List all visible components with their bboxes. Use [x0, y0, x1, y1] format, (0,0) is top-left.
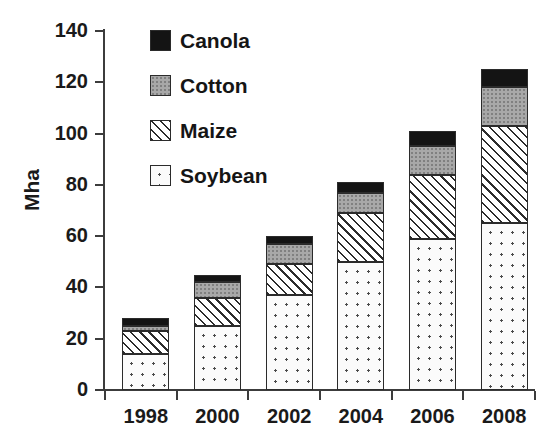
y-tick-mark — [95, 338, 104, 340]
bar-segment-canola[interactable] — [266, 236, 313, 244]
bar-segment-canola[interactable] — [409, 131, 456, 146]
bar-group[interactable] — [481, 31, 528, 390]
bar-segment-soybean[interactable] — [481, 223, 528, 390]
bar-segment-maize[interactable] — [266, 264, 313, 295]
x-tick-mark — [176, 391, 178, 400]
y-tick-label: 20 — [0, 328, 88, 348]
legend: CanolaCottonMaizeSoybean — [150, 22, 330, 202]
y-tick-mark — [95, 81, 104, 83]
bar-segment-maize[interactable] — [481, 126, 528, 223]
bar-segment-cotton[interactable] — [337, 193, 384, 214]
bar-segment-soybean[interactable] — [337, 262, 384, 390]
bar-group[interactable] — [337, 31, 384, 390]
y-tick-label: 60 — [0, 225, 88, 245]
bar-segment-maize[interactable] — [122, 331, 169, 354]
legend-label: Cotton — [180, 75, 248, 96]
y-tick-label: 40 — [0, 276, 88, 296]
legend-item-soybean[interactable]: Soybean — [150, 157, 330, 193]
legend-label: Canola — [180, 30, 250, 51]
bar-segment-cotton[interactable] — [122, 326, 169, 331]
bar-segment-canola[interactable] — [122, 318, 169, 326]
x-tick-mark — [319, 391, 321, 400]
y-tick-label: 120 — [0, 71, 88, 91]
bar-segment-cotton[interactable] — [266, 244, 313, 265]
bar-segment-cotton[interactable] — [194, 282, 241, 297]
white-dotted-swatch — [150, 165, 171, 186]
stacked-bar-chart: Mha 020406080100120140 19982000200220042… — [0, 0, 555, 448]
legend-item-canola[interactable]: Canola — [150, 22, 330, 58]
y-tick-label: 0 — [0, 379, 88, 399]
y-tick-mark — [95, 184, 104, 186]
x-tick-mark — [462, 391, 464, 400]
bar-segment-maize[interactable] — [194, 298, 241, 326]
x-tick-label: 2008 — [459, 406, 549, 426]
bar-segment-canola[interactable] — [337, 182, 384, 192]
bar-segment-cotton[interactable] — [409, 146, 456, 174]
bar-segment-maize[interactable] — [409, 175, 456, 239]
y-tick-label: 80 — [0, 174, 88, 194]
x-tick-mark — [391, 391, 393, 400]
bar-segment-canola[interactable] — [481, 69, 528, 87]
y-tick-mark — [95, 30, 104, 32]
y-tick-mark — [95, 235, 104, 237]
legend-label: Maize — [180, 120, 237, 141]
y-tick-label: 140 — [0, 20, 88, 40]
x-tick-mark — [104, 391, 106, 400]
bar-segment-soybean[interactable] — [266, 295, 313, 390]
y-tick-mark — [95, 286, 104, 288]
legend-item-cotton[interactable]: Cotton — [150, 67, 330, 103]
y-tick-label: 100 — [0, 123, 88, 143]
x-tick-mark — [534, 391, 536, 400]
y-tick-mark — [95, 389, 104, 391]
bar-segment-soybean[interactable] — [122, 354, 169, 390]
y-tick-mark — [95, 133, 104, 135]
bar-segment-soybean[interactable] — [194, 326, 241, 390]
bar-segment-canola[interactable] — [194, 275, 241, 283]
x-tick-mark — [247, 391, 249, 400]
bar-segment-maize[interactable] — [337, 213, 384, 262]
legend-item-maize[interactable]: Maize — [150, 112, 330, 148]
bar-segment-soybean[interactable] — [409, 239, 456, 390]
legend-label: Soybean — [180, 165, 268, 186]
grey-dotted-swatch — [150, 75, 171, 96]
solid-black-swatch — [150, 30, 171, 51]
hatched-swatch — [150, 120, 171, 141]
bar-group[interactable] — [409, 31, 456, 390]
bar-segment-cotton[interactable] — [481, 87, 528, 125]
